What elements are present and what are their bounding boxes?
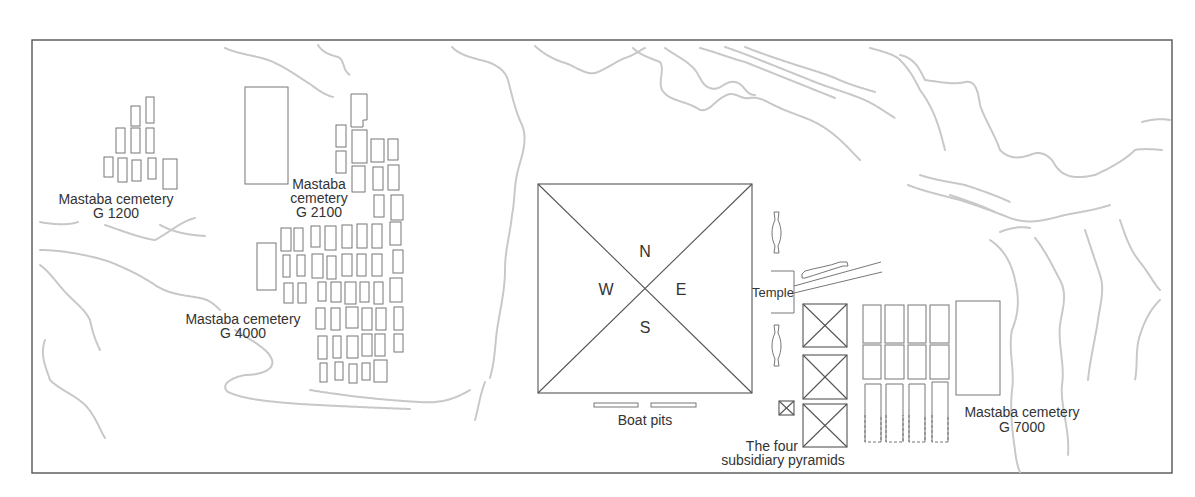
great-pyramid: N W E S <box>538 184 752 393</box>
south-label: S <box>640 319 651 336</box>
north-label: N <box>639 243 651 260</box>
site-plan-map: N W E S <box>0 0 1195 497</box>
boat-pits <box>594 403 696 407</box>
label-g7000-line2: G 7000 <box>999 419 1045 435</box>
cemetery-g1200 <box>104 97 177 189</box>
subsidiary-pyramids <box>779 304 847 447</box>
east-label: E <box>676 281 687 298</box>
label-g2100-line3: G 2100 <box>296 204 342 220</box>
label-temple: Temple <box>752 285 794 300</box>
west-label: W <box>598 281 614 298</box>
label-g1200-line2: G 1200 <box>93 205 139 221</box>
label-g7000-line1: Mastaba cemetery <box>964 404 1079 420</box>
label-boat-pits: Boat pits <box>618 412 672 428</box>
label-subsidiary-line2: subsidiary pyramids <box>721 452 845 468</box>
cemetery-g7000 <box>863 301 1000 442</box>
label-g4000-line2: G 4000 <box>220 325 266 341</box>
cemetery-g4000 <box>257 222 403 383</box>
